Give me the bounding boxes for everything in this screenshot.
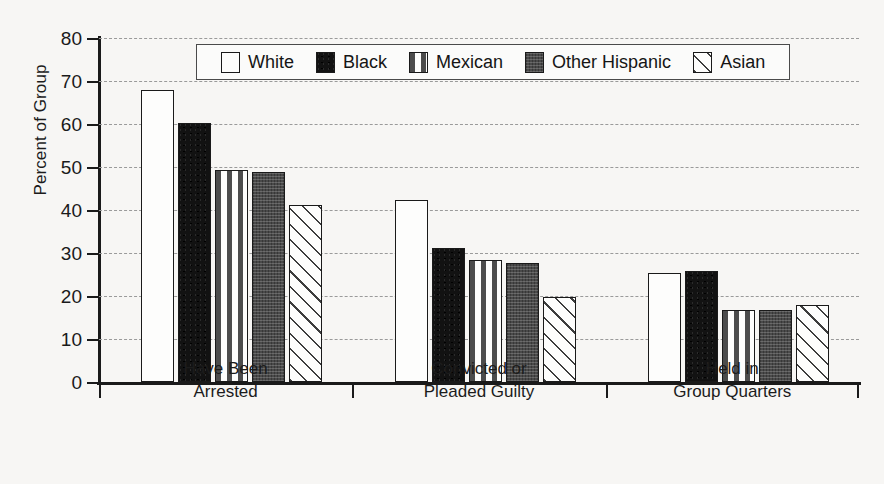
y-tick-label-40: 40: [61, 201, 82, 220]
y-tick-80: [87, 38, 99, 40]
legend-item-asian[interactable]: Asian: [682, 52, 776, 73]
y-tick-10: [87, 339, 99, 341]
y-tick-label-50: 50: [61, 158, 82, 177]
y-tick-label-10: 10: [61, 330, 82, 349]
gridline-50: [99, 167, 859, 168]
y-tick-20: [87, 296, 99, 298]
y-tick-30: [87, 253, 99, 255]
chart-canvas: Percent of Group 80706050403020100 Have …: [0, 0, 884, 484]
x-axis-group-label-line: Arrested: [99, 381, 352, 404]
legend-swatch-icon: [409, 52, 428, 73]
plot-area: 80706050403020100: [99, 38, 859, 382]
gridline-80: [99, 38, 859, 39]
legend-swatch-icon: [525, 52, 544, 73]
bar: [252, 172, 285, 382]
legend-label: Other Hispanic: [552, 53, 671, 71]
y-tick-50: [87, 167, 99, 169]
x-axis-group-label: Held inGroup Quarters: [606, 358, 859, 404]
legend: WhiteBlackMexicanOther HispanicAsian: [196, 44, 790, 80]
x-axis-group-label-line: Held in: [606, 358, 859, 381]
bar: [395, 200, 428, 382]
y-tick-label-60: 60: [61, 115, 82, 134]
y-tick-60: [87, 124, 99, 126]
y-tick-label-0: 0: [71, 373, 82, 392]
gridline-70: [99, 81, 859, 82]
x-axis-group-label: Convicted orPleaded Guilty: [352, 358, 605, 404]
bar: [289, 205, 322, 382]
x-axis-group-label-line: Have Been: [99, 358, 352, 381]
x-axis-group-label-line: Group Quarters: [606, 381, 859, 404]
y-tick-0: [87, 382, 99, 384]
bar: [215, 170, 248, 382]
gridline-30: [99, 253, 859, 254]
x-axis-group-label-line: Pleaded Guilty: [352, 381, 605, 404]
x-axis-group-label-line: Convicted or: [352, 358, 605, 381]
legend-item-white[interactable]: White: [210, 52, 305, 73]
legend-swatch-icon: [693, 52, 712, 73]
y-tick-70: [87, 81, 99, 83]
y-tick-label-80: 80: [61, 29, 82, 48]
y-tick-label-30: 30: [61, 244, 82, 263]
y-tick-label-70: 70: [61, 72, 82, 91]
legend-item-mexican[interactable]: Mexican: [398, 52, 514, 73]
legend-label: Mexican: [436, 53, 503, 71]
legend-label: White: [248, 53, 294, 71]
bar: [178, 123, 211, 382]
legend-swatch-icon: [316, 52, 335, 73]
legend-label: Asian: [720, 53, 765, 71]
gridline-40: [99, 210, 859, 211]
legend-label: Black: [343, 53, 387, 71]
legend-swatch-icon: [221, 52, 240, 73]
x-axis-group-label: Have BeenArrested: [99, 358, 352, 404]
y-tick-label-20: 20: [61, 287, 82, 306]
y-axis-label: Percent of Group: [31, 5, 51, 255]
legend-item-black[interactable]: Black: [305, 52, 398, 73]
y-tick-40: [87, 210, 99, 212]
bar: [141, 90, 174, 382]
legend-item-other-hispanic[interactable]: Other Hispanic: [514, 52, 682, 73]
gridline-60: [99, 124, 859, 125]
